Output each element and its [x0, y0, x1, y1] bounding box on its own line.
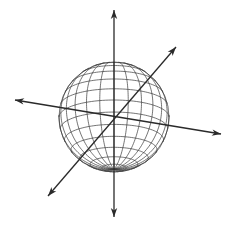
diagonal-axis — [48, 47, 176, 196]
sphere-grid-line — [59, 115, 114, 169]
sphere-grid-line — [114, 115, 169, 169]
sphere-axes-figure — [0, 0, 233, 226]
coordinate-axes — [15, 10, 221, 217]
sphere-diagram — [0, 0, 233, 226]
horizontal-axis — [15, 100, 221, 134]
